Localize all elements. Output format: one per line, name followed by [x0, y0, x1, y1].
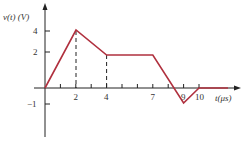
x-tick-4: 4: [104, 92, 109, 102]
x-axis-arrow-icon: [234, 86, 241, 91]
waveform-chart: v(t) (V) 4 2 −1 2 4 7 9 10 t(μs): [0, 0, 246, 145]
x-ticks: [60, 84, 199, 88]
y-axis-label: v(t) (V): [3, 12, 29, 22]
y-tick-4: 4: [33, 26, 38, 36]
x-tick-9: 9: [181, 92, 186, 102]
y-axis-arrow-icon: [43, 3, 48, 10]
x-tick-2: 2: [74, 92, 79, 102]
x-tick-10: 10: [195, 92, 205, 102]
y-tick-2: 2: [33, 47, 38, 57]
x-tick-7: 7: [151, 92, 156, 102]
y-tick-neg1: −1: [27, 99, 37, 109]
x-axis-label: t(μs): [215, 93, 232, 103]
